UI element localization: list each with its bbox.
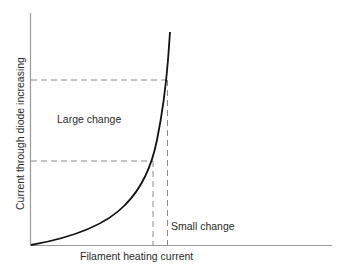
diode-current-curve [31,32,170,245]
large-change-label: Large change [57,113,121,125]
diagram-canvas: Large change Small change Filament heati… [0,0,349,273]
small-change-label: Small change [171,220,235,232]
x-axis-label: Filament heating current [80,250,193,262]
y-axis-label: Current through diode increasing [14,57,26,210]
